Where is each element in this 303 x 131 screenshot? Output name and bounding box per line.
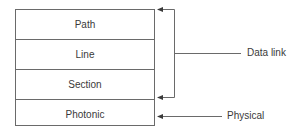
arrow-section-bottom-icon bbox=[157, 95, 163, 100]
arrow-physical-icon bbox=[157, 114, 163, 119]
data-link-bracket bbox=[162, 10, 175, 98]
physical-label: Physical bbox=[227, 110, 264, 122]
arrow-top-icon bbox=[157, 7, 163, 12]
data-link-label: Data link bbox=[247, 47, 286, 59]
